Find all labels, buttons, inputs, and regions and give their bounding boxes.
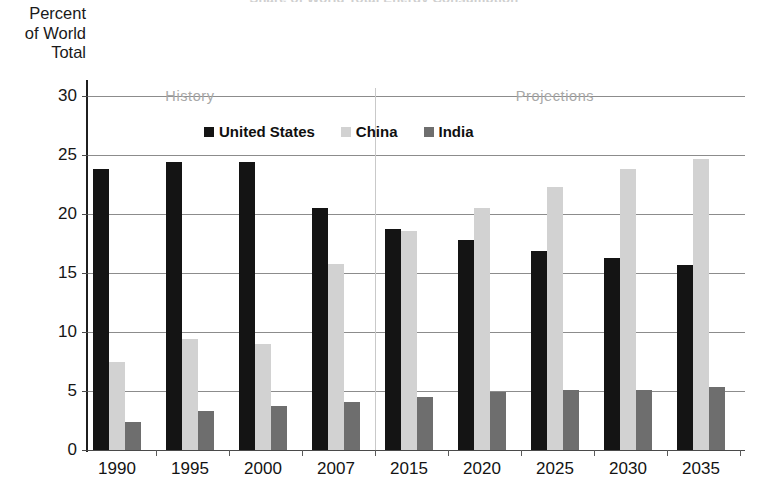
bar-china-2007 bbox=[328, 264, 344, 450]
x-tick-1995 bbox=[156, 450, 157, 456]
legend-swatch-icon bbox=[424, 127, 434, 137]
y-axis-caption-line-1: Percent bbox=[8, 4, 86, 24]
x-tick-label-2007: 2007 bbox=[317, 459, 355, 479]
plot-area: 051015202530HistoryProjectionsUnited Sta… bbox=[88, 96, 745, 450]
bar-india-2015 bbox=[417, 397, 433, 450]
history-projections-divider bbox=[375, 88, 376, 450]
bar-china-1990 bbox=[109, 362, 125, 451]
bar-india-2007 bbox=[344, 402, 360, 450]
y-tick-label-25: 25 bbox=[58, 145, 77, 165]
y-tick-label-10: 10 bbox=[58, 322, 77, 342]
bar-united-states-1990 bbox=[93, 169, 109, 450]
y-tick-20 bbox=[82, 214, 88, 215]
legend-label: United States bbox=[219, 123, 315, 140]
y-axis-caption-line-2: of World bbox=[8, 24, 86, 44]
legend-item-china[interactable]: China bbox=[341, 123, 398, 140]
y-tick-5 bbox=[82, 391, 88, 392]
x-tick-label-2020: 2020 bbox=[463, 459, 501, 479]
x-tick-2015 bbox=[375, 450, 376, 456]
legend-swatch-icon bbox=[204, 127, 214, 137]
bar-china-2000 bbox=[255, 344, 271, 450]
bar-china-2035 bbox=[693, 159, 709, 450]
bar-china-2015 bbox=[401, 231, 417, 450]
bar-china-1995 bbox=[182, 339, 198, 450]
x-tick-label-2035: 2035 bbox=[682, 459, 720, 479]
legend-item-united-states[interactable]: United States bbox=[204, 123, 315, 140]
legend-label: India bbox=[439, 123, 474, 140]
x-tick-label-2015: 2015 bbox=[390, 459, 428, 479]
x-tick-2020 bbox=[448, 450, 449, 456]
bar-india-1990 bbox=[125, 422, 141, 450]
bar-united-states-2000 bbox=[239, 162, 255, 450]
gridline-25 bbox=[88, 155, 745, 156]
y-tick-label-0: 0 bbox=[68, 440, 77, 460]
gridline-20 bbox=[88, 214, 745, 215]
chart-legend: United StatesChinaIndia bbox=[204, 123, 474, 140]
bar-india-2025 bbox=[563, 390, 579, 450]
bar-united-states-2025 bbox=[531, 251, 547, 450]
bar-china-2020 bbox=[474, 208, 490, 450]
y-tick-label-5: 5 bbox=[68, 381, 77, 401]
bar-china-2025 bbox=[547, 187, 563, 450]
y-tick-label-20: 20 bbox=[58, 204, 77, 224]
bar-united-states-2007 bbox=[312, 208, 328, 450]
bar-chart-figure: Share of World Total Energy Consumption … bbox=[0, 0, 768, 496]
y-tick-0 bbox=[82, 450, 88, 451]
chart-title: Share of World Total Energy Consumption bbox=[0, 0, 768, 2]
y-tick-25 bbox=[82, 155, 88, 156]
x-tick-label-2000: 2000 bbox=[244, 459, 282, 479]
bar-india-2000 bbox=[271, 406, 287, 450]
bar-united-states-1995 bbox=[166, 162, 182, 450]
x-tick-label-2025: 2025 bbox=[536, 459, 574, 479]
x-tick-label-1995: 1995 bbox=[171, 459, 209, 479]
x-tick-2025 bbox=[521, 450, 522, 456]
legend-swatch-icon bbox=[341, 127, 351, 137]
y-tick-label-30: 30 bbox=[58, 86, 77, 106]
x-tick-2007 bbox=[302, 450, 303, 456]
section-label-projections: Projections bbox=[516, 88, 594, 104]
bar-india-1995 bbox=[198, 411, 214, 450]
x-tick-2035 bbox=[667, 450, 668, 456]
y-axis-caption: Percent of World Total bbox=[8, 4, 86, 63]
x-tick-2030 bbox=[594, 450, 595, 456]
y-tick-10 bbox=[82, 332, 88, 333]
y-axis-caption-line-3: Total bbox=[8, 43, 86, 63]
y-tick-30 bbox=[82, 96, 88, 97]
legend-label: China bbox=[356, 123, 398, 140]
x-tick-label-1990: 1990 bbox=[98, 459, 136, 479]
bar-india-2030 bbox=[636, 390, 652, 450]
bar-united-states-2035 bbox=[677, 265, 693, 450]
x-tick-2000 bbox=[229, 450, 230, 456]
legend-item-india[interactable]: India bbox=[424, 123, 474, 140]
y-tick-label-15: 15 bbox=[58, 263, 77, 283]
bar-united-states-2015 bbox=[385, 229, 401, 450]
y-tick-15 bbox=[82, 273, 88, 274]
x-tick-label-2030: 2030 bbox=[609, 459, 647, 479]
bar-china-2030 bbox=[620, 169, 636, 450]
bar-united-states-2030 bbox=[604, 258, 620, 450]
bar-india-2020 bbox=[490, 392, 506, 450]
bar-india-2035 bbox=[709, 387, 725, 450]
bar-united-states-2020 bbox=[458, 240, 474, 450]
x-tick-end bbox=[740, 450, 741, 456]
section-label-history: History bbox=[165, 88, 214, 104]
